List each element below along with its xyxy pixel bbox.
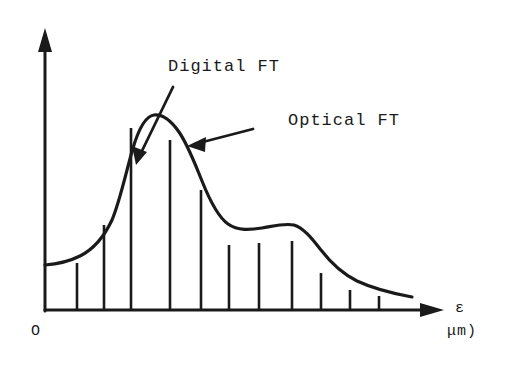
digital-ft-arrowhead (132, 146, 147, 165)
origin-label: O (31, 323, 41, 340)
optical-ft-arrow (187, 129, 253, 152)
y-axis-arrowhead (38, 28, 52, 52)
digital-ft-arrow (132, 87, 173, 165)
digital-ft-label: Digital FT (168, 57, 280, 76)
x-axis-arrowhead (420, 303, 444, 317)
y-axis (38, 28, 52, 311)
optical-ft-label: Optical FT (288, 111, 400, 130)
x-axis-symbol-label: ε (455, 300, 465, 317)
figure-canvas: Digital FT Optical FT O ε μm) (0, 0, 507, 381)
digital-ft-bars (77, 128, 379, 310)
x-axis-unit-label: μm) (447, 323, 477, 340)
